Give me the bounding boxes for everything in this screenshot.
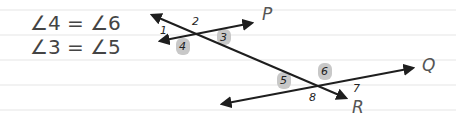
line-q: [222, 68, 413, 104]
angle-label-3: 3: [220, 31, 227, 44]
equation-angle4-angle6: ∠4 = ∠6: [30, 11, 121, 35]
angle-label-1: 1: [160, 24, 167, 37]
angle-label-4: 4: [179, 40, 186, 53]
line-label-p: P: [262, 4, 273, 24]
angle-label-5: 5: [280, 74, 287, 87]
line-label-q: Q: [422, 55, 435, 75]
diagram-canvas: ∠4 = ∠6 ∠3 = ∠5 P Q R 1 2 3 4 5 6 7 8: [0, 0, 456, 122]
angle-label-8: 8: [309, 91, 316, 104]
line-label-r: R: [352, 97, 364, 117]
equation-angle3-angle5: ∠3 = ∠5: [30, 35, 121, 59]
angle-label-6: 6: [321, 65, 328, 78]
parallel-lines-diagram: ∠4 = ∠6 ∠3 = ∠5 P Q R 1 2 3 4 5 6 7 8: [0, 0, 456, 122]
angle-label-2: 2: [192, 15, 199, 28]
angle-label-7: 7: [353, 82, 360, 95]
